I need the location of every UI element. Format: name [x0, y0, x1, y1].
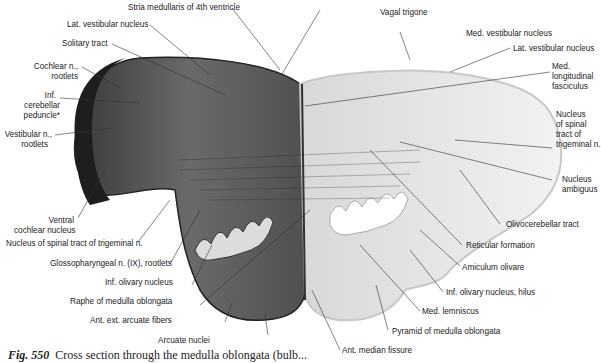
label-med-vestibular-nucleus: Med. vestibular nucleus	[466, 29, 552, 39]
label-raphe: Raphe of medulla oblongata	[70, 297, 172, 307]
label-stria-medullaris: Stria medullaris of 4th ventricle	[128, 3, 240, 13]
label-inf-olivary-nucleus: Inf. olivary nucleus	[105, 278, 173, 288]
label-olivocerebellar-tract: Olivocerebellar tract	[506, 220, 579, 230]
label-mlf-1: Med.	[552, 62, 570, 72]
label-ventral-cochlear-1: Ventral	[14, 216, 74, 226]
label-pyramid: Pyramid of medulla oblongata	[392, 327, 500, 337]
label-vestibular-n-2: rootlets	[0, 140, 48, 150]
label-amiculum-olivare: Amiculum olivare	[462, 263, 524, 273]
label-icp-3: peduncle*	[6, 111, 60, 121]
figure-number: Fig. 550	[8, 348, 49, 362]
label-glossopharyngeal-rootlets: Glossopharyngeal n. (IX), rootlets	[50, 259, 172, 269]
label-cochlear-n-2: rootlets	[28, 72, 78, 82]
label-lat-vestibular-nucleus-right: Lat. vestibular nucleus	[513, 44, 594, 54]
figure-caption: Fig. 550 Cross section through the medul…	[8, 348, 307, 363]
label-vagal-trigone: Vagal trigone	[380, 8, 428, 18]
label-cochlear-n-1: Cochlear n.,	[28, 62, 78, 72]
label-vestibular-n-1: Vestibular n.,	[0, 130, 52, 140]
label-nst-3: tract of	[556, 130, 581, 140]
label-reticular-formation: Reticular formation	[466, 241, 535, 251]
label-ant-median-fissure: Ant. median fissure	[342, 346, 412, 356]
label-med-lemniscus: Med. lemniscus	[422, 307, 479, 317]
figure-caption-text: Cross section through the medulla oblong…	[55, 348, 307, 362]
label-nst-2: of spinal	[556, 120, 587, 130]
label-nst-4: trigeminal n.	[556, 140, 601, 150]
label-icp-2: cerebellar	[6, 101, 60, 111]
label-lat-vestibular-nucleus-left: Lat. vestibular nucleus	[67, 20, 148, 30]
right-half-section	[300, 71, 561, 321]
label-icp-1: Inf.	[6, 91, 56, 101]
label-ventral-cochlear-2: cochlear nucleus	[14, 226, 74, 236]
label-arcuate-nuclei: Arcuate nuclei	[158, 336, 210, 346]
label-nst-1: Nucleus	[556, 110, 586, 120]
label-nucleus-ambiguus-2: ambiguus	[562, 185, 598, 195]
label-nucleus-ambiguus-1: Nucleus	[562, 175, 592, 185]
label-solitary-tract: Solitary tract	[62, 39, 108, 49]
label-ant-ext-arcuate-fibers: Ant. ext. arcuate fibers	[90, 316, 172, 326]
label-mlf-2: longitudinal	[552, 72, 593, 82]
label-mlf-3: fasciculus	[552, 82, 588, 92]
label-nucleus-spinal-tract-trigeminal-left: Nucleus of spinal tract of trigeminal n.	[6, 239, 143, 249]
label-inf-olivary-hilus: Inf. olivary nucleus, hilus	[446, 288, 535, 298]
